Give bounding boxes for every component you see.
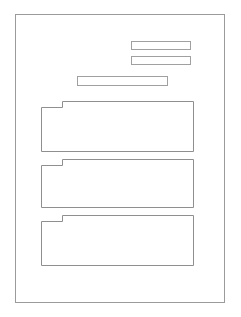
placeholder-bar-wide[interactable] — [77, 76, 168, 86]
content-block-2-outline — [41, 159, 194, 208]
content-block-1[interactable] — [41, 101, 194, 152]
wireframe-canvas — [0, 0, 241, 317]
content-block-1-outline — [41, 101, 194, 152]
placeholder-bar-top-2[interactable] — [131, 56, 191, 65]
placeholder-bar-top-1[interactable] — [131, 41, 191, 50]
content-block-3[interactable] — [41, 215, 194, 266]
content-block-3-outline — [41, 215, 194, 266]
content-block-2[interactable] — [41, 159, 194, 208]
